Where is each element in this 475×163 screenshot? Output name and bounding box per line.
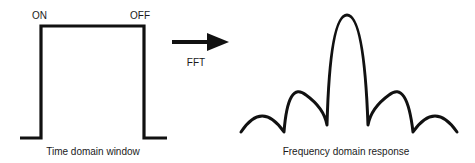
frequency-response-curve <box>241 15 457 132</box>
fft-label: FFT <box>187 58 205 68</box>
time-domain-window-shape <box>20 26 167 138</box>
right-arrow-icon <box>172 33 229 51</box>
on-label: ON <box>32 11 47 21</box>
time-domain-caption: Time domain window <box>46 147 140 157</box>
off-label: OFF <box>130 11 150 21</box>
frequency-domain-caption: Frequency domain response <box>283 147 410 157</box>
diagram-canvas <box>0 0 475 163</box>
